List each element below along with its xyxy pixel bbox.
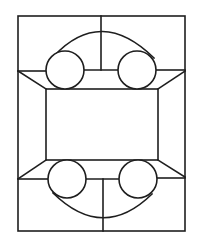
top-right-circle — [118, 51, 156, 89]
top-right-diagonal — [158, 71, 185, 89]
geometric-figure — [0, 0, 201, 248]
bottom-right-diagonal — [158, 160, 185, 177]
bottom-right-circle — [119, 160, 157, 198]
inner-rectangle — [46, 89, 158, 160]
circles-group — [46, 51, 157, 198]
top-left-diagonal — [18, 71, 46, 89]
top-left-circle — [46, 51, 84, 89]
bottom-left-diagonal — [18, 160, 46, 179]
lines-group — [18, 16, 185, 231]
diagram-canvas — [0, 0, 201, 248]
bottom-left-circle — [48, 160, 86, 198]
